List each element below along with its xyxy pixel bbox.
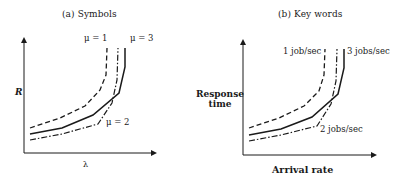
label-mu-1: μ = 1: [84, 33, 107, 43]
label-mu-2: μ = 2: [106, 117, 129, 127]
panel-symbols: (a) Symbols μ = 1 μ = 3 μ = 2 R λ: [0, 0, 200, 179]
curve-mu-2: [30, 48, 118, 140]
x-axis-label: λ: [83, 160, 88, 169]
label-mu-3: μ = 3: [130, 33, 153, 43]
x-axis-label: Arrival rate: [272, 164, 333, 175]
y-axis-label: R: [15, 87, 22, 97]
y-axis-label: Response time: [196, 89, 244, 109]
label-3-jobs-sec: 3 jobs/sec: [347, 46, 390, 56]
curve-3-jobs-sec: [249, 49, 344, 135]
panel-key-words: (b) Key words 1 job/sec 3 jobs/sec 2 job…: [200, 0, 399, 179]
plot-area: [0, 0, 200, 179]
curve-mu-1: [30, 48, 107, 128]
label-1-job-sec: 1 job/sec: [283, 46, 321, 56]
label-2-jobs-sec: 2 jobs/sec: [320, 124, 363, 134]
